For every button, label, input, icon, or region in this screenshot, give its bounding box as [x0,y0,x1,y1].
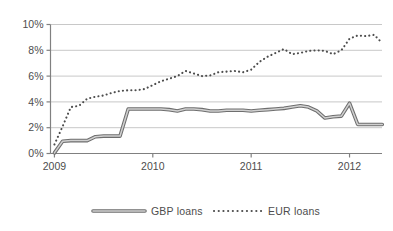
legend-label-gbp: GBP loans [151,205,203,217]
y-tick-label: 6% [28,70,43,82]
y-tick-label: 2% [28,121,43,133]
x-tick-label: 2012 [338,160,362,172]
y-tick-label: 0% [28,147,43,159]
line-chart: 0%2%4%6%8%10% 2009201020112012 GBP loans… [0,0,393,231]
x-tick-label: 2010 [141,160,165,172]
y-tick-label: 4% [28,96,43,108]
y-tick-label: 8% [28,44,43,56]
x-tick-label: 2011 [240,160,263,172]
y-tick-label: 10% [22,18,43,30]
chart-container: 0%2%4%6%8%10% 2009201020112012 GBP loans… [0,0,393,231]
legend-label-eur: EUR loans [268,205,320,217]
x-tick-label: 2009 [43,160,67,172]
